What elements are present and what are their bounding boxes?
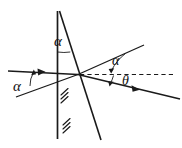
theta-arc-arrowhead: [108, 81, 113, 86]
optics-refraction-figure: α α α θ: [0, 0, 182, 148]
figure-canvas: [0, 0, 182, 148]
alpha-top-label: α: [54, 34, 62, 49]
alpha-right-label: α: [112, 54, 119, 68]
alpha-left-label: α: [13, 79, 21, 94]
theta-label: θ: [122, 74, 129, 88]
alpha-right-arc-arrowhead: [109, 68, 115, 73]
medium-hatching: [61, 89, 70, 134]
incident-ray-arrowhead: [38, 68, 46, 75]
lower-left-surface-line: [16, 75, 78, 98]
refracted-ray: [78, 75, 180, 100]
